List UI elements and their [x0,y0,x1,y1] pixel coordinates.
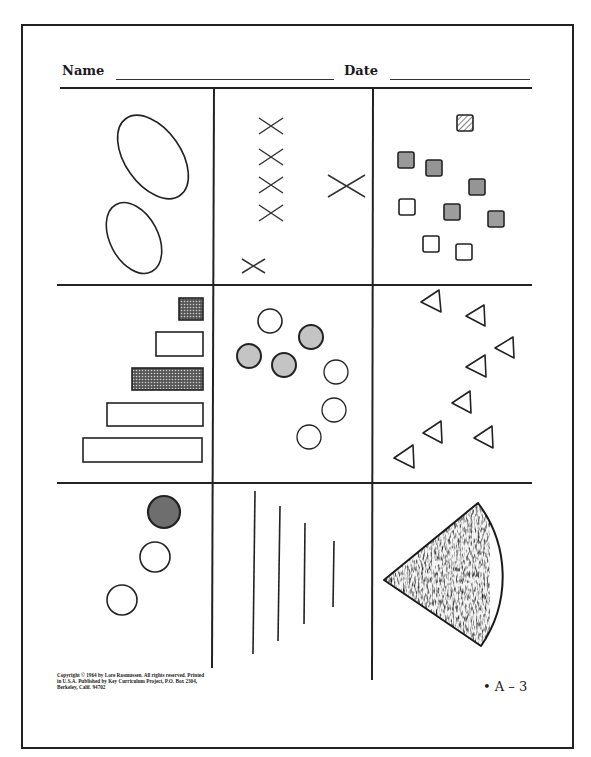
bar-dotted [179,298,203,320]
triangle-shape [421,290,441,312]
square-shaded [469,179,485,195]
square-shaded [398,152,414,168]
bar-dotted [132,368,203,390]
copyright-notice: Copyright © 1964 by Lore Rasmussen. All … [57,672,207,691]
bar-empty [83,438,202,462]
cell-triangles [394,290,514,468]
triangle-shape [474,426,493,448]
triangle-shape [495,337,514,358]
vertical-line [333,541,334,607]
square-empty [456,244,472,260]
cell-bars [83,298,203,462]
square-empty [423,236,439,252]
oval-shape [103,102,203,211]
col-divider-2 [372,88,373,680]
x-mark [259,205,283,221]
circle-shaded [237,344,261,368]
worksheet-page: Name Date [0,0,591,757]
cell-crosses [242,118,365,273]
circle-empty [322,398,346,422]
cell-lines [253,491,334,654]
square-shaded [426,160,442,176]
square-empty [399,199,415,215]
vertical-line [304,523,305,624]
circle-empty [140,542,170,572]
cell-sector [380,500,503,650]
circle-empty [107,585,137,615]
circle-dark [148,496,180,528]
circle-empty [324,360,348,384]
circle-shaded [272,353,296,377]
square-shaded [444,204,460,220]
bar-empty [156,332,203,356]
cell-circles [237,309,348,449]
x-mark [259,118,283,134]
square-hatched [457,115,473,131]
page-number: • A – 3 [483,679,527,694]
triangle-shape [452,391,471,413]
bar-empty [107,403,203,426]
cell-squares [398,115,504,260]
x-mark [259,149,283,165]
circle-empty [258,309,282,333]
square-shaded [488,211,504,227]
triangle-shape [466,355,486,377]
triangle-shape [423,421,442,443]
triangle-shape [394,445,414,468]
cell-dots [107,496,180,615]
oval-shape [95,193,173,283]
col-divider-1 [212,88,214,668]
x-mark [259,177,283,193]
triangle-shape [466,305,485,326]
circle-empty [297,425,321,449]
x-mark-large [328,175,365,197]
vertical-line [253,491,255,654]
x-mark [242,259,265,273]
worksheet-grid-and-shapes [0,0,591,757]
vertical-line [278,506,280,641]
circle-shaded [299,325,323,349]
cell-ovals [95,102,203,282]
